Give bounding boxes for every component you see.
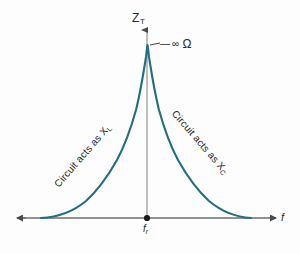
plot-canvas (0, 0, 300, 254)
y-axis-title-subscript: T (140, 17, 145, 26)
infinity-symbol: ∞ (172, 39, 179, 49)
y-axis-title-text: Z (132, 11, 140, 25)
callout-dash: — (160, 39, 170, 49)
fr-label-subscript: r (146, 228, 148, 235)
resonance-curve-figure: ZT f fr — ∞ Ω Circuit acts as XL Circuit… (0, 0, 300, 254)
impedance-curve (41, 45, 251, 218)
resonant-frequency-label: fr (143, 224, 148, 235)
y-axis-title: ZT (132, 12, 145, 26)
peak-callout-leader (150, 43, 160, 45)
x-axis-title: f (281, 212, 284, 223)
peak-impedance-callout: — ∞ Ω (160, 38, 191, 50)
resonant-frequency-marker (144, 215, 150, 221)
ohm-symbol: Ω (182, 38, 191, 50)
